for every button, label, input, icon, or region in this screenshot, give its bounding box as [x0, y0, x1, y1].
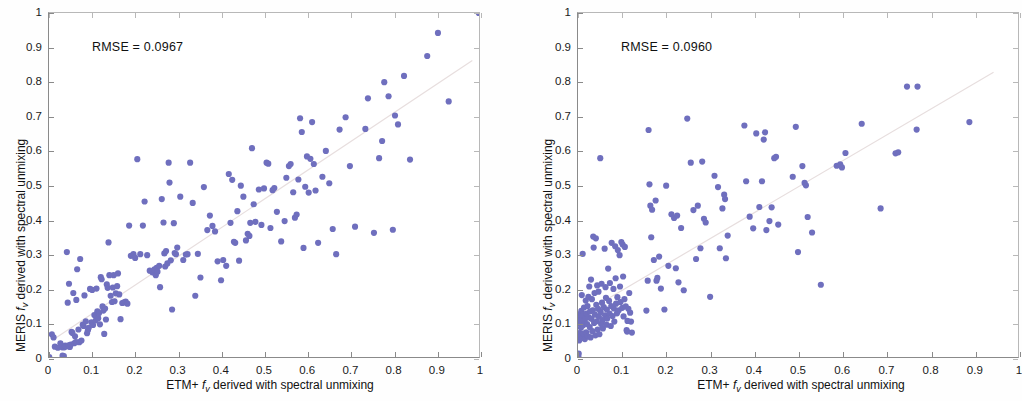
data-point: [629, 329, 635, 335]
data-point: [166, 180, 172, 186]
data-point: [124, 301, 130, 307]
x-tick-label-right-6: 0.6: [834, 364, 850, 376]
y-tick-label-right-7: 0.7: [541, 110, 571, 122]
plot-area-right: [577, 12, 1019, 358]
data-point: [93, 285, 99, 291]
data-point: [65, 300, 71, 306]
data-point: [379, 138, 385, 144]
y-tick-left-4: [49, 221, 54, 222]
data-point: [648, 234, 654, 240]
y-tick-right-left-10: [474, 13, 479, 14]
x-tick-top-left-3: [179, 13, 180, 18]
data-point: [207, 213, 213, 219]
y-tick-right-3: [578, 255, 583, 256]
data-point: [717, 245, 723, 251]
y-tick-label-right-3: 0.3: [541, 248, 571, 260]
y-tick-right-9: [578, 48, 583, 49]
data-point: [390, 227, 396, 233]
data-point: [187, 160, 193, 166]
data-point: [271, 185, 277, 191]
data-point: [407, 156, 413, 162]
data-point: [184, 251, 190, 257]
data-point: [365, 95, 371, 101]
x-tick-label-right-7: 0.7: [878, 364, 894, 376]
data-point: [99, 276, 105, 282]
y-tick-right-4: [578, 221, 583, 222]
x-tick-top-left-5: [265, 13, 266, 18]
data-point: [588, 277, 594, 283]
data-point: [842, 150, 848, 156]
data-point: [160, 219, 166, 225]
data-point: [643, 307, 649, 313]
data-point: [95, 315, 101, 321]
panel-left: RMSE = 0.0967 ETM+ fv derived with spect…: [0, 0, 511, 401]
data-point: [64, 249, 70, 255]
data-point: [381, 79, 387, 85]
y-tick-label-left-3: 0.3: [12, 248, 42, 260]
y-tick-right-8: [578, 82, 583, 83]
y-tick-left-0: [49, 359, 54, 360]
y-tick-right-right-4: [1013, 221, 1018, 222]
data-point: [173, 251, 179, 257]
x-tick-left-8: [395, 352, 396, 357]
x-tick-left-7: [351, 352, 352, 357]
x-tick-left-0: [49, 352, 50, 357]
x-tick-label-left-6: 0.6: [299, 364, 315, 376]
x-tick-top-right-6: [843, 13, 844, 18]
data-point: [114, 283, 120, 289]
data-point: [238, 183, 244, 189]
x-tick-top-left-6: [308, 13, 309, 18]
data-point: [240, 194, 246, 200]
y-tick-right-left-8: [474, 82, 479, 83]
x-tick-top-right-8: [932, 13, 933, 18]
y-tick-label-left-4: 0.4: [12, 214, 42, 226]
data-point: [302, 184, 308, 190]
x-axis-title-prefix-right: ETM+: [697, 378, 733, 392]
data-point: [663, 183, 669, 189]
y-tick-label-left-6: 0.6: [12, 144, 42, 156]
x-tick-top-left-2: [135, 13, 136, 18]
x-tick-label-left-0: 0: [45, 364, 51, 376]
data-point: [591, 245, 597, 251]
data-point: [306, 189, 312, 195]
data-point: [78, 337, 84, 343]
data-point: [300, 245, 306, 251]
data-point: [395, 121, 401, 127]
x-tick-top-right-4: [755, 13, 756, 18]
data-point: [617, 283, 623, 289]
data-point: [283, 175, 289, 181]
data-point: [159, 196, 165, 202]
data-point: [171, 220, 177, 226]
data-point: [73, 297, 79, 303]
data-point: [446, 98, 452, 104]
data-point: [795, 249, 801, 255]
x-tick-label-left-8: 0.8: [386, 364, 402, 376]
y-tick-label-right-5: 0.5: [541, 179, 571, 191]
data-point: [169, 306, 175, 312]
y-tick-label-left-2: 0.2: [12, 283, 42, 295]
data-point: [719, 205, 725, 211]
x-tick-right-9: [976, 352, 977, 357]
y-tick-left-8: [49, 82, 54, 83]
x-tick-left-1: [92, 352, 93, 357]
data-point: [658, 285, 664, 291]
y-tick-right-2: [578, 290, 583, 291]
y-axis-title-symbol-left: f: [14, 307, 28, 310]
data-point: [117, 316, 123, 322]
y-tick-right-left-4: [474, 221, 479, 222]
x-tick-label-right-5: 0.5: [790, 364, 806, 376]
x-tick-right-5: [799, 352, 800, 357]
data-point: [102, 305, 108, 311]
data-point: [227, 220, 233, 226]
data-point: [895, 149, 901, 155]
data-point: [766, 218, 772, 224]
data-point: [347, 163, 353, 169]
data-point: [589, 296, 595, 302]
y-tick-right-left-6: [474, 151, 479, 152]
data-point: [743, 178, 749, 184]
data-point: [371, 230, 377, 236]
data-point: [697, 245, 703, 251]
y-tick-label-left-1: 0.1: [12, 317, 42, 329]
data-point: [722, 196, 728, 202]
data-point: [628, 318, 634, 324]
